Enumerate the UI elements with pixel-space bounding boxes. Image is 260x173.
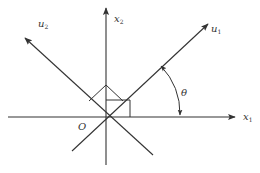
origin-label: O xyxy=(78,122,86,132)
x1-label: x1 xyxy=(243,112,252,123)
x1-label-sub: 1 xyxy=(249,116,253,123)
theta-arc xyxy=(161,66,180,115)
u1-axis xyxy=(72,24,208,151)
u1-label-sub: 1 xyxy=(217,28,221,35)
x2-label-sub: 2 xyxy=(120,18,124,25)
theta-label: θ xyxy=(181,88,187,98)
u2-label: u2 xyxy=(38,19,48,30)
x2-label: x2 xyxy=(114,14,123,25)
u1-label: u1 xyxy=(211,24,221,35)
u2-label-sub: 2 xyxy=(44,23,48,30)
u2-axis xyxy=(25,38,153,155)
